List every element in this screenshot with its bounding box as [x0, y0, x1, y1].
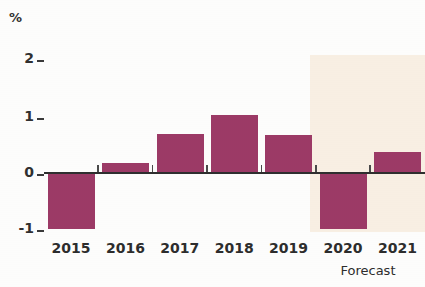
y-tick-neg1: -1	[0, 220, 44, 236]
bar-2017	[157, 134, 204, 172]
axis-tick-2019	[261, 165, 263, 172]
x-label-2021: 2021	[369, 240, 425, 256]
y-tick-1-dash-icon	[37, 118, 44, 120]
y-tick-2-label: 2	[24, 50, 34, 66]
forecast-caption: Forecast	[312, 263, 424, 278]
bar-2020	[320, 172, 367, 229]
x-label-2016: 2016	[97, 240, 153, 256]
y-tick-0-label: 0	[24, 164, 34, 180]
axis-tick-2017	[152, 165, 154, 172]
y-tick-2: 2	[0, 50, 44, 66]
y-axis-unit-label: %	[9, 10, 22, 25]
y-tick-2-dash-icon	[37, 60, 44, 62]
bar-2021	[374, 152, 421, 172]
x-label-2017: 2017	[152, 240, 208, 256]
bar-2015	[48, 172, 95, 229]
plot-area: % 2 1 0 -1 2015201620172018201920202021 …	[0, 0, 425, 287]
x-label-2015: 2015	[43, 240, 99, 256]
x-label-2018: 2018	[206, 240, 262, 256]
x-label-2020: 2020	[315, 240, 371, 256]
x-label-2019: 2019	[261, 240, 317, 256]
axis-tick-2021	[369, 165, 371, 172]
y-tick-neg1-dash-icon	[37, 230, 44, 232]
y-tick-neg1-label: -1	[18, 220, 34, 236]
y-tick-0-dash-icon	[37, 174, 44, 176]
axis-tick-2016	[97, 165, 99, 172]
bar-2019	[265, 135, 312, 172]
y-tick-1-label: 1	[24, 108, 34, 124]
bar-2018	[211, 115, 258, 172]
y-tick-0: 0	[0, 164, 44, 180]
bar-2016	[102, 163, 149, 172]
bar-chart: % 2 1 0 -1 2015201620172018201920202021 …	[0, 0, 425, 287]
axis-tick-2020	[315, 165, 317, 172]
axis-tick-2018	[206, 165, 208, 172]
y-tick-1: 1	[0, 108, 44, 124]
zero-baseline	[44, 172, 425, 174]
